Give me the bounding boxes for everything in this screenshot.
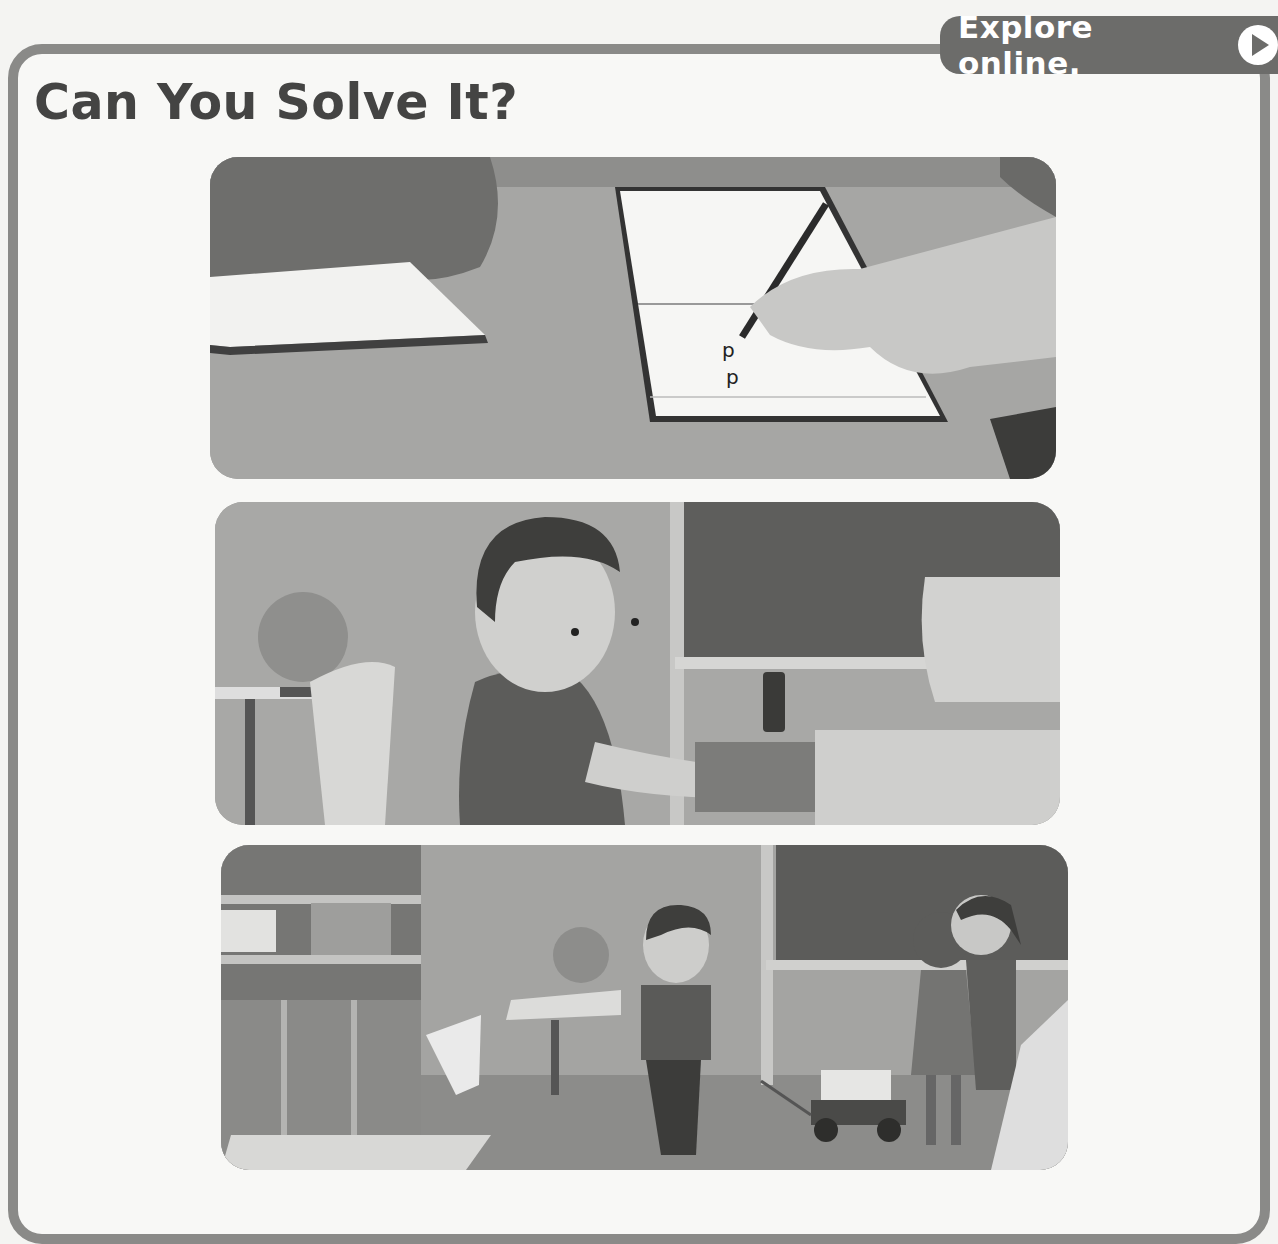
illustration-writing: p p [210,157,1056,479]
illustration-boy-pencil-box [215,502,1060,825]
section-title: Can You Solve It? [34,74,518,131]
explore-online-button[interactable]: Explore online. [940,16,1278,74]
svg-text:p: p [726,365,739,389]
written-letters: p [722,338,735,362]
play-icon [1238,25,1278,65]
explore-online-label: Explore online. [958,9,1226,81]
illustration-classroom-wagon [221,845,1068,1170]
